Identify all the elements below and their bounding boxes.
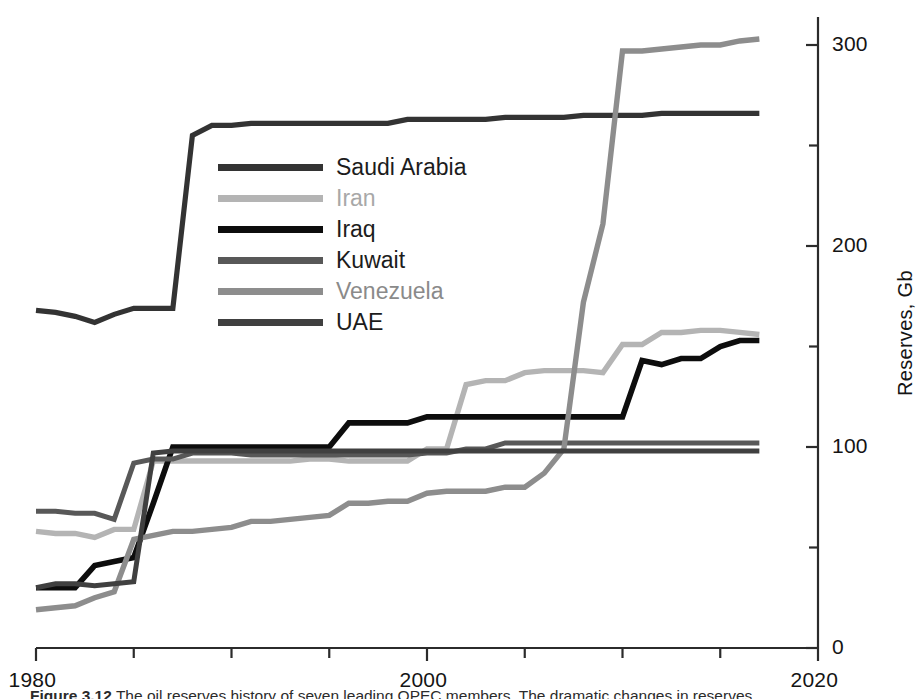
- legend-item-iraq: Iraq: [218, 214, 466, 245]
- legend-item-venezuela: Venezuela: [218, 276, 466, 307]
- y-tick-label-0: 0: [832, 635, 844, 659]
- y-axis-title: Reserves, Gb: [894, 271, 917, 397]
- legend-label: Kuwait: [336, 249, 405, 272]
- chart-canvas: [0, 0, 924, 700]
- y-tick-label-200: 200: [832, 233, 868, 257]
- figure-page: 0 100 200 300 Reserves, Gb 1980 2000 202…: [0, 0, 924, 700]
- y-tick-label-100: 100: [832, 434, 868, 458]
- legend-label: Iran: [336, 187, 376, 210]
- legend-swatch-iraq-icon: [218, 226, 323, 233]
- legend-label: Saudi Arabia: [336, 156, 466, 179]
- legend-label: UAE: [336, 311, 383, 334]
- legend-item-uae: UAE: [218, 307, 466, 338]
- caption-number: 3.12: [82, 687, 112, 699]
- legend-item-saudi-arabia: Saudi Arabia: [218, 152, 466, 183]
- legend-swatch-iran-icon: [218, 195, 323, 202]
- caption-label: Figure: [30, 687, 77, 699]
- caption-text: The oil reserves history of seven leadin…: [116, 687, 752, 699]
- legend-label: Iraq: [336, 218, 376, 241]
- line-chart: 0 100 200 300 Reserves, Gb 1980 2000 202…: [0, 0, 924, 700]
- legend-swatch-kuwait-icon: [218, 257, 323, 264]
- chart-legend: Saudi ArabiaIranIraqKuwaitVenezuelaUAE: [218, 152, 466, 338]
- legend-item-kuwait: Kuwait: [218, 245, 466, 276]
- figure-caption: Figure 3.12 The oil reserves history of …: [30, 686, 900, 699]
- legend-label: Venezuela: [336, 280, 443, 303]
- legend-swatch-venezuela-icon: [218, 288, 323, 295]
- y-tick-label-300: 300: [832, 32, 868, 56]
- legend-swatch-saudi-arabia-icon: [218, 164, 323, 171]
- legend-item-iran: Iran: [218, 183, 466, 214]
- legend-swatch-uae-icon: [218, 319, 323, 326]
